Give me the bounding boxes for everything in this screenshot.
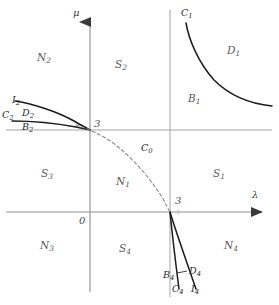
curve-label-I2-sub: 2 bbox=[16, 99, 20, 107]
curve-label-C1-sub: 1 bbox=[188, 12, 192, 20]
region-label-N1-text: N bbox=[116, 175, 125, 187]
region-label-S2: S2 bbox=[115, 59, 127, 71]
region-label-D1: D1 bbox=[227, 45, 240, 57]
region-label-S4: S4 bbox=[119, 243, 131, 255]
tick-label-lambda-3: 3 bbox=[175, 196, 181, 206]
curve-label-B2-text: B bbox=[22, 121, 29, 132]
curve-label-B4-text: B bbox=[163, 269, 170, 280]
region-label-N4: N4 bbox=[224, 240, 238, 252]
axis-label-lambda: λ bbox=[252, 190, 258, 200]
tick-label-mu-3: 3 bbox=[94, 119, 100, 129]
region-label-N2-sub: 2 bbox=[46, 56, 51, 65]
curve-label-B4: B4 bbox=[163, 270, 174, 281]
curve-label-C2: C2 bbox=[2, 110, 14, 121]
curve-label-D4-text: D bbox=[189, 265, 197, 276]
curve-label-D4: D4 bbox=[189, 266, 201, 277]
curve-label-D2-sub: 2 bbox=[30, 112, 34, 120]
region-label-S4-sub: 4 bbox=[126, 247, 131, 256]
region-label-B1: B1 bbox=[188, 93, 201, 105]
region-label-S2-sub: 2 bbox=[122, 63, 127, 72]
region-label-B1-text: B bbox=[188, 92, 196, 104]
pointer-group bbox=[177, 271, 187, 273]
bifurcation-diagram: μ λ 0 3 3 N2 S2 D1 B1 S3 N1 S1 N3 S4 N4 … bbox=[0, 0, 279, 305]
curve-label-D2-text: D bbox=[22, 107, 30, 118]
region-label-N3-sub: 3 bbox=[49, 244, 54, 253]
curve-label-C2-sub: 2 bbox=[9, 114, 13, 122]
curve-label-D4-sub: 4 bbox=[197, 270, 201, 278]
region-label-N1-sub: 1 bbox=[125, 180, 130, 189]
curve-label-C4: C4 bbox=[172, 284, 184, 295]
curve-label-I2: I2 bbox=[12, 95, 20, 106]
region-label-S3: S3 bbox=[41, 168, 53, 180]
region-label-N2-text: N bbox=[37, 51, 46, 63]
curve-label-D2: D2 bbox=[22, 108, 34, 119]
curve-label-C4-sub: 4 bbox=[179, 288, 183, 296]
origin-label: 0 bbox=[79, 216, 85, 226]
region-label-N2: N2 bbox=[37, 52, 51, 64]
region-label-N3-text: N bbox=[40, 239, 49, 251]
curve-label-I4-sub: 4 bbox=[195, 288, 199, 296]
curve-label-C0: C0 bbox=[141, 143, 153, 154]
curve-label-B2-sub: 2 bbox=[29, 126, 33, 134]
curve-label-B2: B2 bbox=[22, 122, 33, 133]
region-label-N4-sub: 4 bbox=[233, 244, 238, 253]
region-label-N4-text: N bbox=[224, 239, 233, 251]
region-label-D1-sub: 1 bbox=[235, 49, 240, 58]
region-label-N1: N1 bbox=[116, 176, 130, 188]
axis-label-mu: μ bbox=[73, 8, 80, 18]
curve-label-I4: I4 bbox=[191, 284, 199, 295]
region-label-N3: N3 bbox=[40, 240, 54, 252]
region-label-B1-sub: 1 bbox=[196, 97, 201, 106]
region-label-S1: S1 bbox=[213, 168, 225, 180]
curve-label-B4-sub: 4 bbox=[170, 274, 174, 282]
region-label-S3-sub: 3 bbox=[48, 172, 53, 181]
curve-label-C0-sub: 0 bbox=[148, 147, 152, 155]
pointer-D4 bbox=[177, 271, 187, 273]
curve-label-C1: C1 bbox=[181, 8, 193, 19]
region-label-S1-sub: 1 bbox=[220, 172, 225, 181]
